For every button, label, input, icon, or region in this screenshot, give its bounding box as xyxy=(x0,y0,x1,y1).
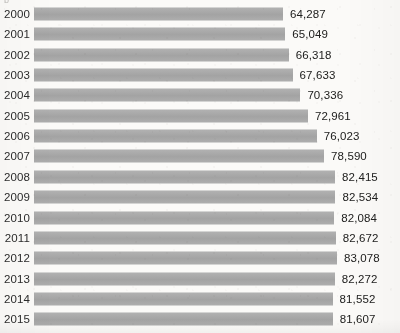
bar-category-label: 2002 xyxy=(0,49,30,61)
bar-row: 200470,336 xyxy=(0,85,400,105)
bar-value-label: 72,961 xyxy=(315,110,351,122)
bar xyxy=(34,69,293,82)
horizontal-bar-chart: 200064,287200165,049200266,318200367,633… xyxy=(0,0,400,333)
bar-value-label: 64,287 xyxy=(290,8,326,20)
bar-value-label: 70,336 xyxy=(307,89,343,101)
bar-category-label: 2008 xyxy=(0,171,30,183)
bar-value-label: 82,534 xyxy=(342,191,378,203)
bar-row: 200676,023 xyxy=(0,126,400,146)
bar xyxy=(34,89,300,102)
bar-value-label: 81,552 xyxy=(340,293,376,305)
bar-row: 201182,672 xyxy=(0,228,400,248)
bar-row: 200982,534 xyxy=(0,187,400,207)
bar-row: 201481,552 xyxy=(0,289,400,309)
bar-category-label: 2004 xyxy=(0,89,30,101)
bar-category-label: 2000 xyxy=(0,8,30,20)
bar-category-label: 2003 xyxy=(0,69,30,81)
bar xyxy=(34,313,333,326)
bar-value-label: 82,084 xyxy=(341,212,377,224)
bar-value-label: 78,590 xyxy=(331,150,367,162)
bar-row: 200367,633 xyxy=(0,65,400,85)
bar-category-label: 2001 xyxy=(0,28,30,40)
bar xyxy=(34,130,317,143)
bar-row: 201082,084 xyxy=(0,208,400,228)
bar-category-label: 2006 xyxy=(0,130,30,142)
bar-category-label: 2005 xyxy=(0,110,30,122)
bar-value-label: 76,023 xyxy=(324,130,360,142)
bar-value-label: 65,049 xyxy=(292,28,328,40)
bar xyxy=(34,231,336,244)
bar-row: 201382,272 xyxy=(0,269,400,289)
bar-category-label: 2007 xyxy=(0,150,30,162)
bar-value-label: 82,272 xyxy=(342,273,378,285)
bar-category-label: 2012 xyxy=(0,252,30,264)
bar-value-label: 83,078 xyxy=(344,252,380,264)
cut-off-glyph-artifact: b xyxy=(4,0,14,4)
bar-category-label: 2013 xyxy=(0,273,30,285)
bar-row: 200778,590 xyxy=(0,146,400,166)
bar-row: 200882,415 xyxy=(0,167,400,187)
bar xyxy=(34,252,337,265)
bar-value-label: 66,318 xyxy=(296,49,332,61)
bar-row: 200165,049 xyxy=(0,24,400,44)
bar-row: 201283,078 xyxy=(0,248,400,268)
bar xyxy=(34,292,333,305)
bar xyxy=(34,48,289,61)
bar xyxy=(34,109,308,122)
bar xyxy=(34,170,335,183)
bar-category-label: 2014 xyxy=(0,293,30,305)
bar-value-label: 82,672 xyxy=(343,232,379,244)
bar-category-label: 2010 xyxy=(0,212,30,224)
bar xyxy=(34,28,285,41)
bar xyxy=(34,211,334,224)
bar-value-label: 81,607 xyxy=(340,313,376,325)
bar xyxy=(34,150,324,163)
bar-row: 200572,961 xyxy=(0,106,400,126)
bar-category-label: 2011 xyxy=(0,232,30,244)
bar-value-label: 82,415 xyxy=(342,171,378,183)
bar xyxy=(34,191,335,204)
bar-row: 200064,287 xyxy=(0,4,400,24)
bar xyxy=(34,272,335,285)
bar-row: 200266,318 xyxy=(0,45,400,65)
bar-category-label: 2015 xyxy=(0,313,30,325)
bar-row: 201581,607 xyxy=(0,309,400,329)
bar-value-label: 67,633 xyxy=(300,69,336,81)
bar-category-label: 2009 xyxy=(0,191,30,203)
bar xyxy=(34,8,283,21)
